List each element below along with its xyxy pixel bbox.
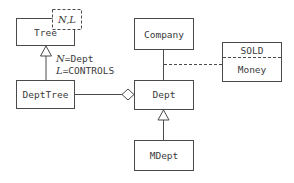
binding-n: N=Dept bbox=[55, 53, 93, 64]
generalization-mdept-dept bbox=[158, 110, 169, 140]
class-money-name: Money bbox=[238, 64, 267, 75]
class-money: SOLD Money bbox=[223, 43, 282, 82]
class-dept: Dept bbox=[135, 81, 194, 110]
class-company: Company bbox=[135, 19, 194, 50]
class-mdept-name: MDept bbox=[150, 150, 179, 161]
uml-diagram: Tree N,L N=Dept L=CONTROLS DeptTree Comp… bbox=[0, 0, 294, 183]
binding-l: L=CONTROLS bbox=[55, 65, 114, 76]
class-depttree-name: DeptTree bbox=[23, 89, 69, 100]
binding-labels: N=Dept L=CONTROLS bbox=[55, 53, 114, 76]
type-parameters-label: N,L bbox=[57, 14, 76, 25]
class-mdept: MDept bbox=[135, 141, 194, 171]
generalization-arrowhead-icon bbox=[41, 46, 52, 56]
binding-l-value: =CONTROLS bbox=[63, 65, 115, 76]
generalization-depttree-tree bbox=[41, 46, 52, 80]
aggregation-diamond-icon bbox=[122, 89, 134, 100]
aggregation-depttree-dept bbox=[75, 89, 134, 100]
type-parameter-box: N,L bbox=[53, 10, 82, 30]
binding-n-value: =Dept bbox=[65, 53, 94, 64]
class-depttree: DeptTree bbox=[17, 81, 75, 109]
class-company-name: Company bbox=[144, 29, 184, 40]
class-money-stereotype: SOLD bbox=[241, 45, 264, 56]
generalization-arrowhead-icon bbox=[158, 110, 169, 120]
class-dept-name: Dept bbox=[153, 89, 176, 100]
